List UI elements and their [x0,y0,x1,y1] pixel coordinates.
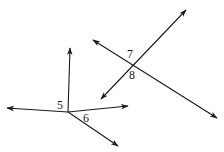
geometry-diagram: 5 6 7 8 [0,0,224,152]
line-a [101,10,186,99]
intersecting-lines-figure: 7 8 [93,10,217,118]
angle-label-6: 6 [83,111,89,125]
line-b [93,40,217,118]
angle-label-5: 5 [57,98,63,112]
ray-right [68,106,128,112]
rays-figure: 5 6 [7,48,128,146]
ray-up [68,48,70,112]
ray-down-right [68,112,118,146]
angle-label-7: 7 [127,47,133,61]
angle-label-8: 8 [129,68,135,82]
